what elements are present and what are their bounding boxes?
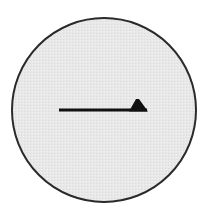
harpoon-circle-symbol xyxy=(0,0,209,215)
diagram-canvas: Circle containing a rightward single-bar… xyxy=(0,0,209,215)
